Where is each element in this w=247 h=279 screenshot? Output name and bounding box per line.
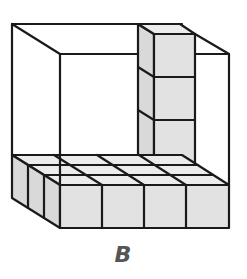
cube-edge-top-left bbox=[12, 24, 60, 54]
figure-label: B bbox=[115, 242, 132, 267]
cube-edge-top-right bbox=[195, 34, 229, 54]
cube-diagram: B bbox=[0, 0, 247, 279]
floor-layer bbox=[12, 155, 229, 228]
